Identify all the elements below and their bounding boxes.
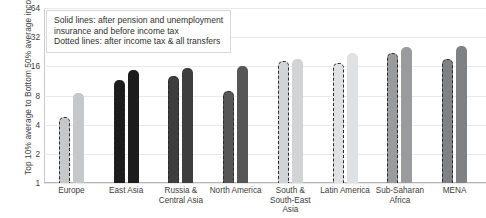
bar-chart: Top 10% average to Bottom 50% average in… — [0, 0, 486, 218]
bar-solid[interactable] — [292, 59, 303, 183]
bar-solid[interactable] — [401, 47, 412, 183]
gridline — [44, 183, 486, 184]
x-tick-label: South & South-East Asia — [263, 186, 318, 215]
bar-dotted[interactable] — [223, 91, 234, 183]
legend-line-1: Solid lines: after pension and unemploym… — [54, 15, 223, 26]
bar-dotted[interactable] — [168, 76, 179, 183]
x-tick-label: Latin America — [318, 186, 373, 215]
y-axis-title: Top 10% average to Bottom 50% average in… — [23, 0, 33, 175]
y-tick-label: 2 — [35, 149, 40, 159]
bar-solid[interactable] — [347, 53, 358, 183]
legend-line-2: insurance and before income tax — [54, 26, 223, 37]
y-tick-label: 4 — [35, 120, 40, 130]
x-tick-label: East Asia — [99, 186, 154, 215]
x-tick-label: MENA — [427, 186, 482, 215]
y-tick-label: 8 — [35, 91, 40, 101]
y-tick-label: 16 — [31, 61, 40, 71]
bar-solid[interactable] — [128, 70, 139, 183]
bar-dotted[interactable] — [59, 117, 70, 183]
bar-group — [373, 8, 428, 183]
x-axis-labels: EuropeEast AsiaRussia & Central AsiaNort… — [44, 186, 482, 215]
bar-solid[interactable] — [456, 46, 467, 183]
y-tick-label: 32 — [31, 32, 40, 42]
legend-line-3: Dotted lines: after income tax & all tra… — [54, 36, 223, 47]
bar-dotted[interactable] — [442, 59, 453, 183]
bar-solid[interactable] — [237, 66, 248, 183]
y-tick-label: 64 — [31, 3, 40, 13]
bar-dotted[interactable] — [114, 80, 125, 183]
bar-dotted[interactable] — [278, 61, 289, 183]
bar-solid[interactable] — [182, 68, 193, 183]
bar-group — [427, 8, 482, 183]
bar-group — [263, 8, 318, 183]
x-tick-label: North America — [208, 186, 263, 215]
x-tick-label: Europe — [44, 186, 99, 215]
legend: Solid lines: after pension and unemploym… — [46, 10, 231, 53]
y-tick-label: 1 — [35, 178, 40, 188]
x-tick-label: Sub-Saharan Africa — [373, 186, 428, 215]
bar-group — [318, 8, 373, 183]
bar-solid[interactable] — [73, 93, 84, 183]
bar-dotted[interactable] — [387, 53, 398, 183]
x-tick-label: Russia & Central Asia — [154, 186, 209, 215]
bar-dotted[interactable] — [333, 63, 344, 183]
